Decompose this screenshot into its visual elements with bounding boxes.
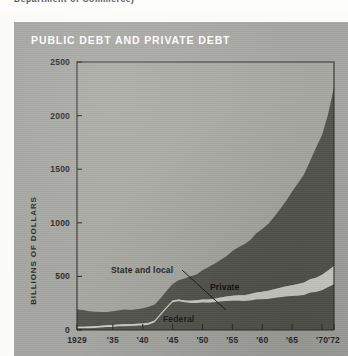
- x-tick-label: '70: [316, 335, 328, 345]
- x-tick-label: '45: [167, 335, 179, 345]
- x-tick-label: 1929: [67, 335, 87, 345]
- chart-figure-panel: PUBLIC DEBT AND PRIVATE DEBT 05001000150…: [14, 22, 348, 356]
- x-tick-label: '65: [286, 335, 298, 345]
- source-caption-text: Department of Commerce): [14, 0, 135, 4]
- x-tick-label: '50: [196, 335, 208, 345]
- y-axis-title: BILLIONS OF DOLLARS: [29, 196, 38, 306]
- x-tick-label: '55: [226, 335, 238, 345]
- chart-plot-area: [14, 22, 348, 356]
- annotation-federal: Federal: [163, 314, 194, 324]
- x-tick-label: '40: [137, 335, 149, 345]
- x-tick-label: '72: [328, 335, 340, 345]
- annotation-state-and-local: State and local: [111, 265, 173, 275]
- x-tick-label: '35: [107, 335, 119, 345]
- annotation-private: Private: [210, 282, 239, 292]
- x-tick-label: '60: [256, 335, 268, 345]
- y-tick-label: 2500: [28, 57, 70, 67]
- y-tick-label: 2000: [28, 111, 70, 121]
- y-tick-label: 1500: [28, 164, 70, 174]
- y-tick-label: 0: [28, 325, 70, 335]
